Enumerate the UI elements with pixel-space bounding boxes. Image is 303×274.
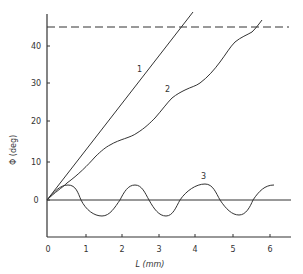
- curve-1: [47, 12, 193, 200]
- x-tick-label: 0: [45, 245, 50, 254]
- y-tick-label: 0: [33, 196, 38, 205]
- x-tick-label: 1: [83, 245, 88, 254]
- y-axis-title: Φ (deg): [9, 135, 18, 165]
- y-tick-label: 40: [31, 42, 41, 51]
- x-tick-label: 3: [156, 245, 161, 254]
- curve-2: [47, 20, 262, 200]
- x-tick-label: 5: [230, 245, 235, 254]
- x-tick-label: 2: [119, 245, 124, 254]
- y-tick-label: 20: [31, 117, 41, 126]
- x-tick-label: 6: [267, 245, 272, 254]
- x-tick-label: 4: [192, 245, 197, 254]
- curve-2-label: 2: [165, 85, 170, 94]
- y-tick-label: 10: [31, 158, 41, 167]
- curve-3-label: 3: [201, 172, 206, 181]
- chart: 0 10 20 30 40 0 1 2 3 4 5 6 L (mm) Φ (de…: [0, 0, 303, 274]
- curve-1-label: 1: [137, 65, 142, 74]
- y-tick-label: 30: [31, 79, 41, 88]
- x-axis-title: L (mm): [136, 260, 165, 269]
